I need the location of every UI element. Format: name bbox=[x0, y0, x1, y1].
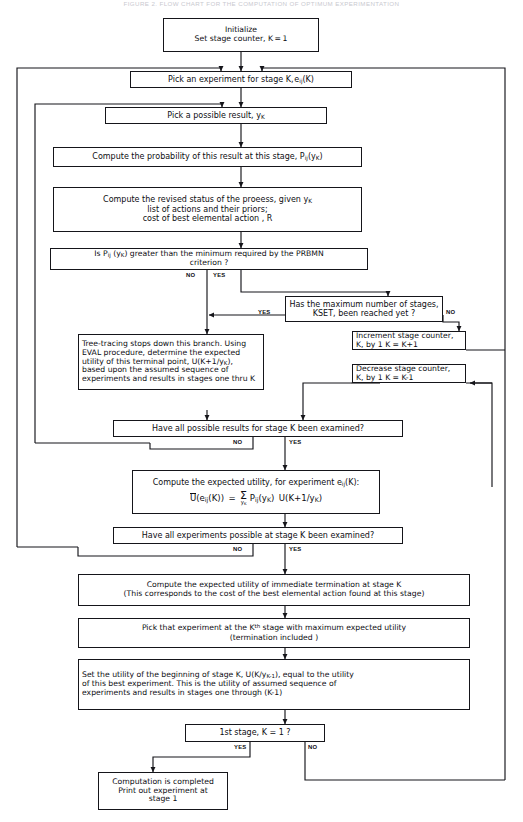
edge-label-results-yes: YES bbox=[289, 439, 301, 445]
node-increment-counter: Increment stage counter, K, by 1 K = K+1 bbox=[352, 331, 466, 350]
edge-label-first-stage-no: NO bbox=[308, 744, 317, 750]
node-compute-expected-utility: Compute the expected utility, for experi… bbox=[132, 470, 380, 514]
revised-status-line-1: Compute the revised status of the proees… bbox=[103, 195, 312, 205]
experiments-examined-label: Have all experiments possible at stage K… bbox=[142, 531, 374, 540]
node-results-examined-test: Have all possible results for stage K be… bbox=[113, 420, 403, 437]
node-set-utility: Set the utility of the beginning of stag… bbox=[78, 659, 470, 710]
edge-label-kset-yes: YES bbox=[258, 309, 270, 315]
node-pick-max-utility: Pick that experiment at the Kth stage wi… bbox=[78, 618, 470, 648]
edge-label-results-no: NO bbox=[233, 439, 242, 445]
increment-counter-line-2: K, by 1 K = K+1 bbox=[356, 341, 418, 350]
revised-status-line-2: list of actions and their priors; bbox=[147, 205, 267, 214]
node-initialize: Initialize Set stage counter, K = 1 bbox=[163, 18, 319, 52]
edge-label-first-stage-yes: YES bbox=[234, 744, 246, 750]
node-compute-revised-status: Compute the revised status of the proees… bbox=[53, 187, 362, 232]
edge-label-experiments-no: NO bbox=[233, 546, 242, 552]
compute-probability-label: Compute the probability of this result a… bbox=[92, 152, 322, 162]
kset-test-line-1: Has the maximum number of stages, bbox=[289, 300, 438, 309]
edge-label-prbmn-yes: YES bbox=[213, 272, 225, 278]
revised-status-line-3: cost of best elemental action , R bbox=[143, 214, 273, 223]
tree-tracing-line-5: experiments and results in stages one th… bbox=[82, 375, 255, 384]
node-kset-test: Has the maximum number of stages, KSET, … bbox=[285, 296, 443, 322]
pick-result-label: Pick a possible result, yK bbox=[167, 111, 264, 121]
expected-utility-formula: U(eij(K)) = ΣyK Pij(yK) U(K+1/yK) bbox=[190, 491, 322, 506]
node-pick-experiment: Pick an experiment for stage K, eij(K) bbox=[130, 71, 352, 88]
computation-complete-line-3: stage 1 bbox=[149, 795, 178, 804]
decrease-counter-line-2: K, by 1 K = K-1 bbox=[356, 374, 413, 383]
node-immediate-termination: Compute the expected utility of immediat… bbox=[78, 574, 470, 606]
node-computation-complete: Computation is completed Print out exper… bbox=[98, 772, 228, 810]
kset-test-line-2: KSET, been reached yet ? bbox=[313, 309, 415, 318]
pick-experiment-label: Pick an experiment for stage K, eij(K) bbox=[168, 75, 314, 85]
node-experiments-examined-test: Have all experiments possible at stage K… bbox=[113, 527, 403, 544]
initialize-line-2: Set stage counter, K = 1 bbox=[195, 35, 288, 44]
node-first-stage-test: 1st stage, K = 1 ? bbox=[185, 724, 325, 742]
node-prbmn-test: Is Pij (yK) greater than the minimum req… bbox=[50, 248, 368, 270]
first-stage-label: 1st stage, K = 1 ? bbox=[219, 728, 290, 737]
node-pick-result: Pick a possible result, yK bbox=[105, 107, 327, 124]
immediate-termination-line-2: (This corresponds to the cost of the bes… bbox=[124, 590, 425, 599]
pick-max-line-2: (termination included ) bbox=[230, 634, 318, 643]
node-compute-probability: Compute the probability of this result a… bbox=[53, 147, 362, 167]
node-tree-tracing: Tree-tracing stops down this branch. Usi… bbox=[78, 334, 264, 390]
set-utility-line-3: experiments and results in stages one th… bbox=[82, 689, 282, 698]
expected-utility-label: Compute the expected utility, for experi… bbox=[153, 478, 359, 488]
edge-label-experiments-yes: YES bbox=[289, 546, 301, 552]
edge-label-kset-no: NO bbox=[446, 309, 455, 315]
prbmn-test-line-2: criterion ? bbox=[190, 259, 229, 268]
results-examined-label: Have all possible results for stage K be… bbox=[152, 424, 364, 433]
edge-label-prbmn-no: NO bbox=[186, 272, 195, 278]
node-decrease-counter: Decrease stage counter, K, by 1 K = K-1 bbox=[352, 364, 466, 383]
